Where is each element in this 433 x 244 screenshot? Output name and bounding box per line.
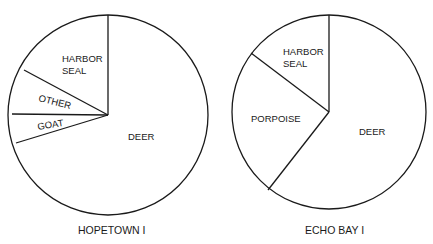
echobay-label-deer: DEER xyxy=(359,126,386,137)
hopetown-label-harbor-seal-1: HARBOR xyxy=(62,53,103,64)
pie-charts-figure: HARBOR SEAL OTHER GOAT DEER HOPETOWN I H… xyxy=(0,0,433,244)
echobay-label-harbor-seal-2: SEAL xyxy=(283,58,307,69)
hopetown-label-harbor-seal-2: SEAL xyxy=(62,65,86,76)
echobay-caption: ECHO BAY I xyxy=(305,224,364,236)
hopetown-label-deer: DEER xyxy=(128,131,155,142)
hopetown-caption: HOPETOWN I xyxy=(78,224,145,236)
echobay-label-porpoise: PORPOISE xyxy=(251,113,301,124)
echobay-pie xyxy=(232,15,426,209)
echobay-label-harbor-seal-1: HARBOR xyxy=(283,46,324,57)
hopetown-label-other: OTHER xyxy=(38,92,73,111)
hopetown-divider-other-goat xyxy=(12,114,108,115)
hopetown-pie xyxy=(8,15,208,215)
